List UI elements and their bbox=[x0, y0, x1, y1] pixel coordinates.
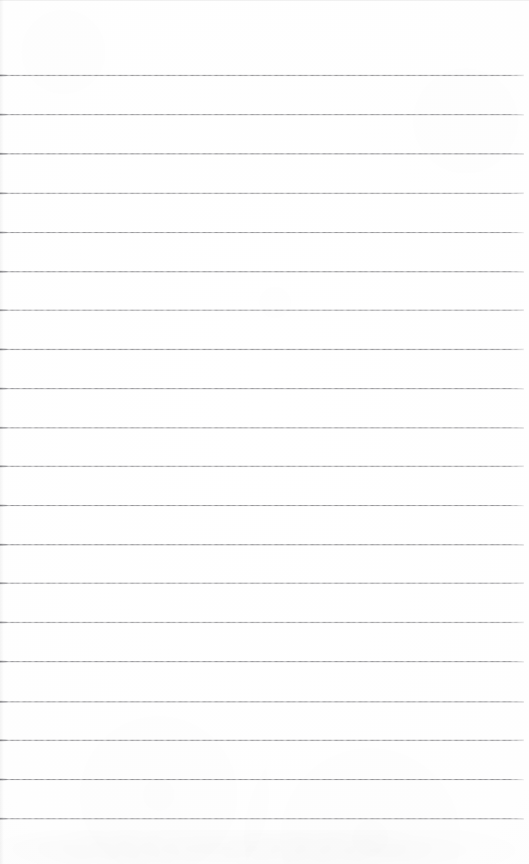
ruled-line bbox=[0, 310, 524, 311]
ruled-line-layer bbox=[0, 0, 529, 864]
ruled-line bbox=[0, 622, 524, 623]
ruled-line bbox=[0, 583, 524, 584]
ruled-line bbox=[0, 427, 524, 428]
ruled-line bbox=[0, 349, 524, 350]
ruled-line bbox=[0, 701, 524, 702]
ruled-line bbox=[0, 388, 524, 389]
ruled-line bbox=[0, 114, 524, 115]
ruled-line bbox=[0, 544, 524, 545]
ruled-line bbox=[0, 271, 524, 272]
ruled-line bbox=[0, 740, 524, 741]
ruled-line bbox=[0, 75, 524, 76]
scanned-page bbox=[0, 0, 529, 864]
ruled-line bbox=[0, 153, 524, 154]
ruled-line bbox=[0, 466, 524, 467]
ruled-line bbox=[0, 818, 524, 819]
ruled-line bbox=[0, 661, 524, 662]
ruled-line bbox=[0, 232, 524, 233]
ruled-line bbox=[0, 505, 524, 506]
ruled-line bbox=[0, 193, 524, 194]
ruled-line bbox=[0, 779, 524, 780]
